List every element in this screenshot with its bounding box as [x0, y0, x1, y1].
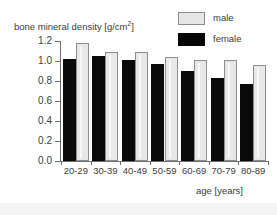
x-tick-mark: [179, 161, 180, 165]
bar-female: [63, 59, 76, 161]
x-tick-label: 50-59: [152, 166, 176, 176]
x-tick-label: 40-49: [123, 166, 147, 176]
y-tick-mark: [55, 141, 60, 142]
y-tick-label: 1.2: [38, 36, 52, 46]
x-tick-mark: [238, 161, 239, 165]
x-tick-label: 60-69: [182, 166, 206, 176]
y-axis-line: [60, 41, 61, 162]
y-tick-label: 0.2: [38, 136, 52, 146]
bar-female: [211, 78, 224, 161]
x-tick-mark: [209, 161, 210, 165]
y-tick-mark: [55, 121, 60, 122]
x-tick-label: 70-79: [211, 166, 235, 176]
bar-group: [240, 41, 266, 161]
bar-group: [151, 41, 177, 161]
y-tick-label: 0.6: [38, 96, 52, 106]
bar-male: [165, 57, 178, 161]
bar-female: [181, 71, 194, 161]
bottom-band: [0, 203, 277, 215]
bar-female: [122, 60, 135, 161]
bar-group: [92, 41, 118, 161]
x-tick-mark: [91, 161, 92, 165]
y-axis-title-text: bone mineral density [g/cm: [14, 21, 128, 32]
bar-male: [135, 52, 148, 161]
bar-chart-figure: bone mineral density [g/cm2] male female…: [0, 0, 277, 215]
y-tick-mark: [55, 61, 60, 62]
x-tick-mark: [268, 161, 269, 165]
bar-group: [211, 41, 237, 161]
bar-male: [224, 60, 237, 161]
legend-swatch-male: [178, 12, 205, 25]
bar-female: [240, 84, 253, 161]
legend-label-male: male: [213, 13, 234, 23]
bar-female: [151, 64, 164, 161]
bar-male: [76, 43, 89, 161]
y-tick-label: 0.4: [38, 116, 52, 126]
bar-group: [181, 41, 207, 161]
y-tick-mark: [55, 101, 60, 102]
y-axis-title-tail: ]: [131, 21, 134, 32]
bar-male: [194, 60, 207, 161]
bar-group: [122, 41, 148, 161]
x-tick-label: 20-29: [64, 166, 88, 176]
x-tick-mark: [61, 161, 62, 165]
bar-female: [92, 56, 105, 161]
x-tick-label: 80-89: [241, 166, 265, 176]
x-tick-mark: [120, 161, 121, 165]
x-axis-title: age [years]: [196, 186, 243, 196]
y-tick-label: 0.8: [38, 76, 52, 86]
x-tick-mark: [150, 161, 151, 165]
y-tick-label: 1.0: [38, 56, 52, 66]
y-tick-label: 0.0: [38, 156, 52, 166]
bar-group: [63, 41, 89, 161]
bar-male: [105, 52, 118, 161]
y-tick-mark: [55, 41, 60, 42]
y-axis-title: bone mineral density [g/cm2]: [14, 22, 134, 32]
x-tick-label: 30-39: [93, 166, 117, 176]
y-tick-mark: [55, 161, 60, 162]
bar-male: [253, 65, 266, 161]
legend-item-male: male: [178, 10, 273, 26]
y-tick-mark: [55, 81, 60, 82]
plot-area: 0.00.20.40.60.81.01.2 20-2930-3940-4950-…: [61, 41, 268, 161]
